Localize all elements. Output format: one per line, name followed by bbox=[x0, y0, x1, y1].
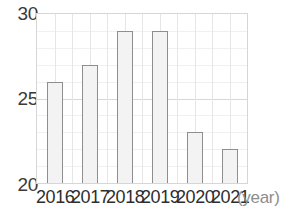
bar-2018 bbox=[117, 31, 133, 183]
bar-2017 bbox=[82, 65, 98, 183]
gridline-vertical bbox=[177, 14, 178, 183]
x-axis-tick-label-2018: 2018 bbox=[106, 188, 141, 206]
x-axis-tick-label-2020: 2020 bbox=[176, 188, 211, 206]
y-axis-tick-label-30: 30 bbox=[0, 4, 38, 23]
bar-2016 bbox=[47, 82, 63, 183]
gridline-vertical bbox=[142, 14, 143, 183]
plot-area bbox=[36, 13, 248, 184]
bar-2019 bbox=[152, 31, 168, 183]
x-axis-unit-label: (year) bbox=[237, 189, 280, 206]
gridline-vertical bbox=[72, 14, 73, 183]
bar-2021 bbox=[222, 149, 238, 183]
x-axis-tick-label-2017: 2017 bbox=[71, 188, 106, 206]
x-axis-tick-label-2019: 2019 bbox=[141, 188, 176, 206]
bar-chart-figure: 30 25 20 201620172018201920202021 (year) bbox=[0, 0, 292, 217]
bar-2020 bbox=[187, 132, 203, 183]
y-axis-tick-label-20: 20 bbox=[0, 175, 38, 194]
x-axis-tick-label-2016: 2016 bbox=[36, 188, 71, 206]
gridline-vertical bbox=[212, 14, 213, 183]
y-axis-tick-label-25: 25 bbox=[0, 89, 38, 108]
gridline-vertical bbox=[107, 14, 108, 183]
